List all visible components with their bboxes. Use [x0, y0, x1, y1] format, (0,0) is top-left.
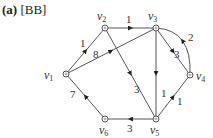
- edge-weight-label: 1: [177, 95, 183, 107]
- node-v1: v1: [44, 68, 69, 83]
- node-label: v2: [97, 9, 106, 24]
- edge-weight-label: 1: [126, 13, 132, 25]
- edge-layer: 1813132137: [66, 13, 194, 134]
- node-label: v4: [196, 69, 205, 84]
- node-label: v6: [99, 123, 108, 138]
- edge-v6-v1: 7: [66, 74, 105, 119]
- edge-weight-label: 8: [93, 48, 99, 60]
- node-label: v5: [150, 123, 159, 138]
- edge-weight-label: 2: [188, 31, 194, 43]
- edge-v3-v4: 3: [156, 28, 190, 75]
- edge-v1-v2: 1: [66, 28, 105, 74]
- edge-v1-v3: 8: [66, 28, 156, 74]
- edge-weight-label: 3: [174, 48, 180, 60]
- node-label: v1: [44, 68, 53, 83]
- edge-v3-v5: 1: [156, 28, 167, 119]
- edge-weight-label: 7: [70, 88, 76, 100]
- directed-graph: 1813132137 v1v2v3v4v5v6: [0, 0, 213, 138]
- node-label: v3: [148, 9, 157, 24]
- node-v2: v2: [97, 9, 108, 31]
- edge-weight-label: 1: [80, 37, 86, 49]
- edge-v5-v6: 3: [105, 119, 156, 134]
- node-v6: v6: [99, 116, 108, 138]
- edge-v2-v5: 3: [105, 28, 156, 119]
- edge-weight-label: 3: [127, 122, 133, 134]
- edge-weight-label: 3: [134, 83, 140, 95]
- edge-weight-label: 1: [161, 87, 167, 99]
